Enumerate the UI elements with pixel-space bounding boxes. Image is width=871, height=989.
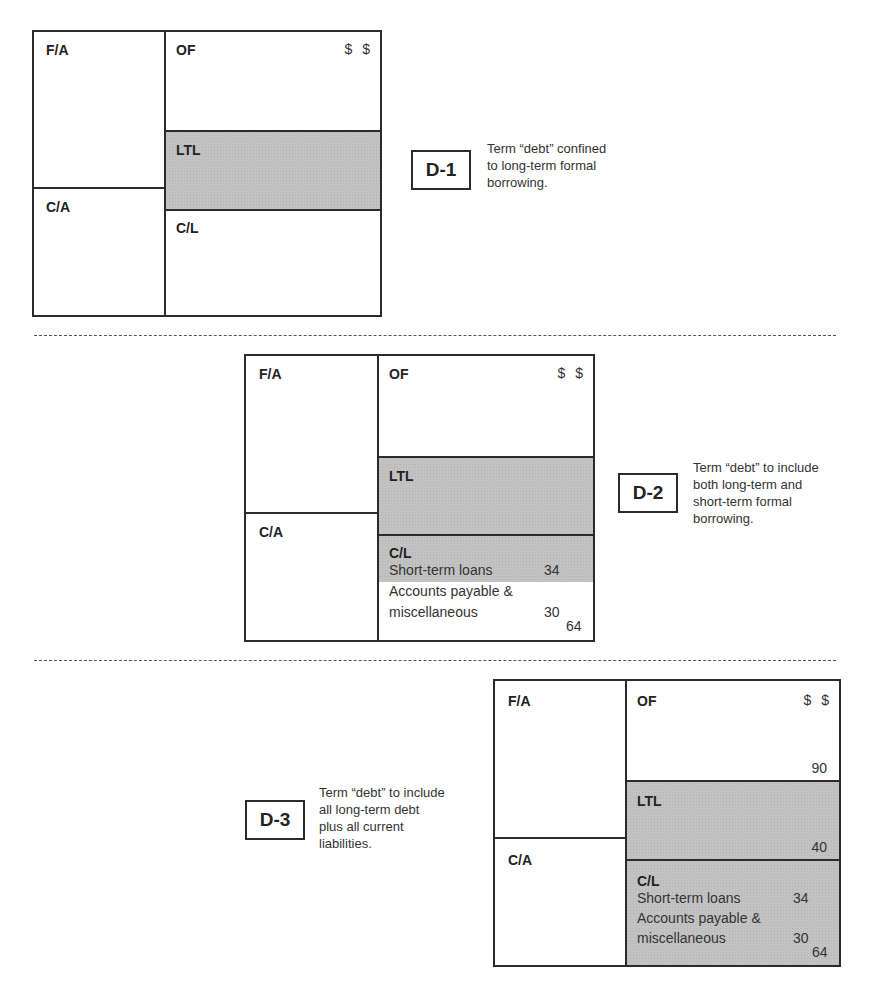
separator-1 [34,335,836,336]
dollar-header: $$ [334,41,370,57]
divider-fa-ca [34,187,165,189]
accounts-payable-value: 30 [793,930,809,946]
cl-total: 64 [566,618,582,634]
accounts-payable-label-2: miscellaneous [637,930,726,946]
short-term-loans-label: Short-term loans [389,562,492,578]
panel-tag-d2: D-2 [618,473,678,513]
balance-sheet-d1: F/A OF $$ LTL C/A C/L [32,30,382,317]
dollar-col-2: $ [821,692,829,708]
divider-vertical [625,681,627,965]
panel-tag-d3: D-3 [245,800,305,840]
label-ca: C/A [508,852,532,868]
divider-vertical [164,32,166,315]
of-total: 90 [811,760,827,776]
label-cl: C/L [637,873,660,889]
label-ltl: LTL [176,142,201,158]
label-fa: F/A [46,42,69,58]
accounts-payable-value: 30 [544,604,560,620]
dollar-col-1: $ [803,692,811,708]
dollar-header: $$ [547,365,583,381]
balance-sheet-d3: F/A OF $$ 90 LTL 40 C/A C/L Short-term l… [493,679,841,967]
dollar-col-1: $ [344,41,352,57]
label-of: OF [389,366,408,382]
divider-ltl-cl [378,534,593,536]
accounts-payable-label-1: Accounts payable & [389,583,513,599]
divider-fa-ca [495,837,626,839]
label-cl: C/L [176,220,199,236]
divider-of-ltl [165,130,380,132]
divider-vertical [377,356,379,640]
caption-d3: Term “debt” to include all long-term deb… [319,784,445,852]
dollar-header: $$ [793,692,829,708]
cl-total: 64 [812,944,828,960]
panel-tag-d1: D-1 [411,150,471,190]
short-term-loans-value: 34 [544,562,560,578]
divider-fa-ca [246,512,378,514]
caption-d1: Term “debt” confined to long-term formal… [487,140,606,191]
accounts-payable-label-2: miscellaneous [389,604,478,620]
divider-of-ltl [378,456,593,458]
short-term-loans-value: 34 [793,890,809,906]
separator-2 [34,660,836,661]
accounts-payable-label-1: Accounts payable & [637,910,761,926]
divider-ltl-cl [626,859,839,861]
label-ca: C/A [259,524,283,540]
label-ltl: LTL [389,468,414,484]
ltl-total: 40 [811,839,827,855]
caption-d2: Term “debt” to include both long-term an… [693,459,819,527]
dollar-col-2: $ [575,365,583,381]
label-ltl: LTL [637,793,662,809]
label-fa: F/A [508,693,531,709]
dollar-col-1: $ [557,365,565,381]
divider-of-ltl [626,780,839,782]
balance-sheet-d2: F/A OF $$ LTL C/A C/L Short-term loans 3… [244,354,595,642]
short-term-loans-label: Short-term loans [637,890,740,906]
label-cl: C/L [389,545,412,561]
dollar-col-2: $ [362,41,370,57]
divider-ltl-cl [165,209,380,211]
label-ca: C/A [46,199,70,215]
label-fa: F/A [259,366,282,382]
label-of: OF [637,693,656,709]
label-of: OF [176,42,195,58]
